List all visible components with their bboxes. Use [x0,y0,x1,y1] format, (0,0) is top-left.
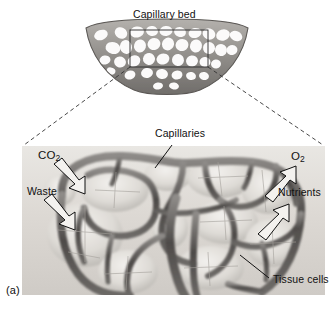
label-capillaries: Capillaries [155,128,205,139]
label-waste: Waste [27,186,57,197]
label-co2-text: CO [38,149,55,161]
label-nutrients: Nutrients [278,187,321,198]
label-tissue-cells: Tissue cells [273,274,329,285]
label-o2: O2 [291,151,305,164]
label-o2-subscript: 2 [300,154,305,164]
panel-letter: (a) [6,285,20,296]
label-co2-subscript: 2 [55,153,60,163]
overview-title: Capillary bed [133,9,196,20]
figure-capillary-bed: Capillary bed Capillaries CO2 Waste O2 N… [0,0,334,313]
zoom-leader-right [208,67,323,145]
label-co2: CO2 [38,150,60,163]
label-o2-text: O [291,150,300,162]
